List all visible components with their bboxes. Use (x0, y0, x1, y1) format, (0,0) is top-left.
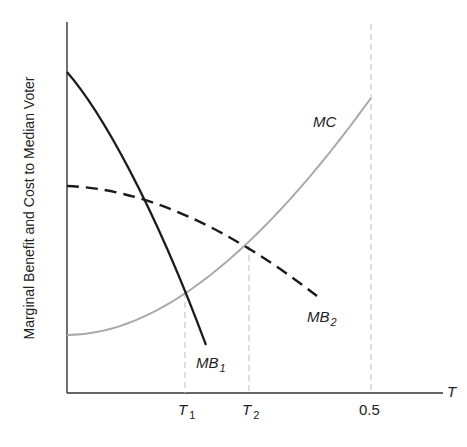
x-tick-t2: T2 (242, 401, 259, 421)
mc-curve (67, 98, 371, 335)
y-axis-label: Marginal Benefit and Cost to Median Vote… (21, 76, 37, 339)
x-axis-label: T (447, 383, 458, 400)
mc-label: MC (313, 113, 336, 130)
x-tick-half: 0.5 (359, 401, 380, 418)
mb1-label: MB1 (196, 354, 226, 374)
mb2-curve (67, 186, 317, 296)
x-tick-t1: T1 (178, 401, 195, 421)
mb2-label: MB2 (307, 308, 337, 328)
chart: MC MB2 MB1 T1 T2 0.5 T Marginal Benefit … (0, 0, 467, 447)
